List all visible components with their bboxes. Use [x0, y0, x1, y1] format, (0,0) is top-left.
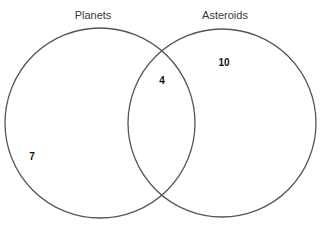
intersection-count: 4 [159, 75, 165, 86]
venn-diagram: Planets Asteroids 7 4 10 [0, 0, 329, 237]
asteroids-only-count: 10 [218, 57, 230, 68]
planets-circle [5, 28, 195, 218]
planets-only-count: 7 [29, 151, 35, 162]
planets-label: Planets [75, 9, 112, 21]
asteroids-label: Asteroids [202, 9, 248, 21]
